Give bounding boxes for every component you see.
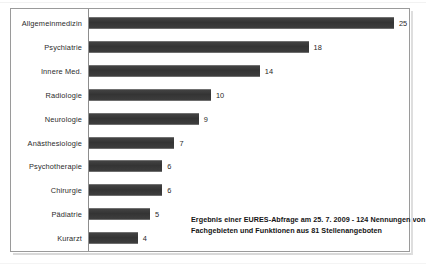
annotation-line-1: Ergebnis einer EURES-Abfrage am 25. 7. 2… <box>191 215 405 226</box>
bar-track <box>89 137 174 148</box>
annotation-line-2: Fachgebieten und Funktionen aus 81 Stell… <box>191 226 405 237</box>
bar-track <box>89 41 309 52</box>
bar-row: Psychotherapie6 <box>11 154 409 178</box>
bar-row: Chirurgie6 <box>11 178 409 202</box>
bar <box>89 89 211 100</box>
category-label: Psychiatrie <box>44 42 82 51</box>
bar-value-label: 5 <box>155 210 159 219</box>
bar <box>89 41 309 52</box>
bar-track <box>89 65 260 76</box>
bar-value-label: 4 <box>143 234 147 243</box>
bar-value-label: 6 <box>167 162 171 171</box>
bar-value-label: 10 <box>216 90 224 99</box>
bar-value-label: 9 <box>204 114 208 123</box>
category-label: Psychotherapie <box>29 162 82 171</box>
category-label: Chirurgie <box>51 186 82 195</box>
category-label: Anästhesiologie <box>28 138 82 147</box>
bar-row: Neurologie9 <box>11 107 409 131</box>
chart-frame-shadow-right <box>411 11 413 255</box>
category-label: Innere Med. <box>41 66 82 75</box>
bar-value-label: 6 <box>167 186 171 195</box>
category-label: Neurologie <box>45 114 82 123</box>
bar-value-label: 14 <box>265 66 273 75</box>
bar-row: Psychiatrie18 <box>11 35 409 59</box>
bar-track <box>89 89 211 100</box>
category-label: Pädiatrie <box>51 210 82 219</box>
bar <box>89 113 199 124</box>
bar <box>89 137 174 148</box>
category-label: Kurarzt <box>57 234 82 243</box>
scan-artifact-bottom <box>0 263 426 264</box>
bar <box>89 18 394 29</box>
bar-track <box>89 233 138 244</box>
chart-frame: Allgemeinmedizin25Psychiatrie18Innere Me… <box>10 8 410 252</box>
bar-value-label: 7 <box>179 138 183 147</box>
bar-track <box>89 18 394 29</box>
bar <box>89 185 162 196</box>
scan-artifact-top <box>0 2 426 3</box>
bar <box>89 65 260 76</box>
bar <box>89 161 162 172</box>
bar-value-label: 18 <box>314 42 322 51</box>
bar-row: Radiologie10 <box>11 83 409 107</box>
category-label: Radiologie <box>46 90 82 99</box>
bar-value-label: 25 <box>399 19 407 28</box>
chart-frame-shadow-bottom <box>13 253 413 255</box>
bar-track <box>89 113 199 124</box>
bar-track <box>89 161 162 172</box>
bar-row: Innere Med.14 <box>11 59 409 83</box>
bar-track <box>89 209 150 220</box>
category-label: Allgemeinmedizin <box>22 19 82 28</box>
bar-track <box>89 185 162 196</box>
chart-annotation: Ergebnis einer EURES-Abfrage am 25. 7. 2… <box>191 215 405 236</box>
bar-row: Allgemeinmedizin25 <box>11 11 409 35</box>
bar <box>89 209 150 220</box>
bar-row: Anästhesiologie7 <box>11 131 409 155</box>
bar <box>89 233 138 244</box>
